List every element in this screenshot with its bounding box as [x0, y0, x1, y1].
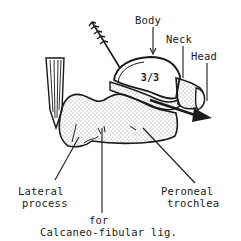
feather-arrow-icon: [89, 22, 120, 68]
label-for: for: [89, 215, 109, 226]
label-process: process: [22, 198, 68, 209]
diagram-canvas: 3/3 Body Neck Head Lateral process Peron…: [0, 0, 241, 241]
label-lateral: Lateral: [18, 186, 64, 197]
label-neck: Neck: [166, 34, 192, 45]
label-head: Head: [191, 51, 217, 62]
label-calcaneo-fibular: Calcaneo-fibular lig.: [40, 227, 177, 238]
label-body: Body: [135, 15, 161, 26]
label-trochlea: trochlea: [167, 198, 219, 209]
fraction-mark: 3/3: [140, 72, 160, 83]
label-peroneal: Peroneal: [161, 186, 213, 197]
